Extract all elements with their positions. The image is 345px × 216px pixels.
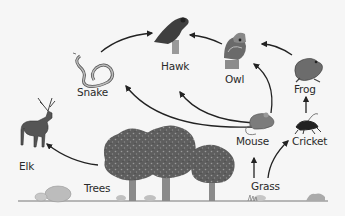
label-elk: Elk [19, 161, 34, 172]
grass-tuft-icon [306, 193, 325, 201]
ground [18, 186, 328, 202]
arrow-grass-to-cricket [268, 141, 288, 178]
rock-icon [35, 193, 47, 201]
snake-icon [73, 53, 113, 87]
arrow-mouse-to-owl [254, 64, 272, 113]
label-trees: Trees [84, 183, 110, 194]
label-frog: Frog [294, 84, 316, 95]
food-web-diagram: Snake Hawk Owl Frog Elk Mouse Cricket Tr… [0, 0, 345, 216]
hawk-icon [154, 18, 189, 55]
label-hawk: Hawk [161, 61, 189, 72]
rock-icon [144, 195, 156, 201]
arrow-owl-to-hawk [190, 35, 222, 44]
label-grass: Grass [251, 181, 280, 192]
arrow-mouse-to-hawk [180, 92, 254, 123]
arrow-frog-to-owl [262, 44, 292, 55]
elk-icon [21, 98, 55, 147]
label-snake: Snake [77, 87, 108, 98]
frog-icon [295, 58, 323, 82]
grass-tuft-icon [248, 195, 257, 201]
cricket-icon [295, 114, 321, 134]
owl-icon [224, 33, 246, 69]
mouse-icon [246, 113, 274, 135]
arrow-snake-to-hawk [101, 33, 152, 52]
label-mouse: Mouse [236, 136, 269, 147]
arrow-trees-to-elk [47, 144, 98, 165]
rock-icon [116, 195, 126, 201]
rock-icon [45, 186, 71, 202]
trees-icon [104, 125, 235, 201]
label-cricket: Cricket [292, 136, 327, 147]
label-owl: Owl [225, 74, 244, 85]
